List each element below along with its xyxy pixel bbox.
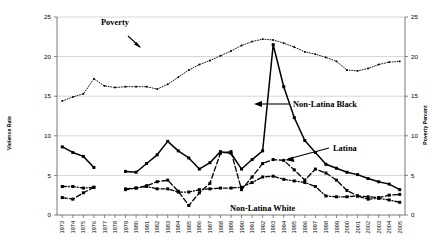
series-label-non-latina-black: Non-Latina Black xyxy=(293,100,357,109)
data-point-marker xyxy=(367,177,370,180)
data-point-marker xyxy=(135,187,138,190)
data-point-marker xyxy=(219,187,222,190)
data-point-marker xyxy=(335,167,338,170)
data-point-marker xyxy=(367,68,369,70)
data-point-marker xyxy=(208,187,211,190)
y-axis-left-tick-label: 15 xyxy=(44,92,51,99)
x-axis-tick-label: 1996 xyxy=(302,221,308,233)
y-axis-left-tick-label: 25 xyxy=(44,13,51,20)
data-point-marker xyxy=(272,175,275,178)
x-axis-tick-label: 1984 xyxy=(175,221,181,233)
x-axis-tick-label: 1992 xyxy=(260,221,266,233)
data-point-marker xyxy=(335,195,338,198)
x-axis-tick-label: 1973 xyxy=(59,221,65,233)
data-point-marker xyxy=(272,43,275,46)
data-point-marker xyxy=(388,198,391,201)
x-axis-tick-label: 1978 xyxy=(112,221,118,233)
data-point-marker xyxy=(208,182,211,185)
x-axis-tick-label: 2003 xyxy=(376,221,382,233)
data-point-marker xyxy=(230,50,232,52)
data-point-marker xyxy=(324,172,327,175)
y-axis-right-tick-label: 15 xyxy=(411,92,418,99)
data-point-marker xyxy=(198,188,201,191)
series-line xyxy=(62,187,94,199)
data-point-marker xyxy=(92,166,95,169)
y-axis-left-title: Violence Rate xyxy=(6,116,12,150)
data-point-marker xyxy=(71,185,74,188)
data-point-marker xyxy=(293,116,296,119)
data-point-marker xyxy=(187,204,190,207)
data-point-marker xyxy=(61,100,63,102)
data-point-marker xyxy=(272,39,274,41)
data-point-marker xyxy=(82,187,85,190)
data-point-marker xyxy=(293,168,296,171)
data-point-marker xyxy=(377,197,380,200)
x-axis-tick-label: 2001 xyxy=(355,221,361,233)
x-axis-tick-label: 1974 xyxy=(70,221,76,233)
x-axis-tick-label: 1991 xyxy=(249,221,255,233)
data-point-marker xyxy=(241,45,243,47)
data-point-marker xyxy=(303,139,306,142)
data-point-marker xyxy=(156,153,159,156)
x-axis-tick-label: 1977 xyxy=(102,221,108,233)
data-point-marker xyxy=(399,61,401,63)
y-axis-left-tick-label: 20 xyxy=(44,53,51,60)
data-point-marker xyxy=(230,187,233,190)
data-point-marker xyxy=(282,85,285,88)
data-point-marker xyxy=(336,61,338,63)
data-point-marker xyxy=(357,70,359,72)
series-label-poverty: Poverty xyxy=(101,18,130,27)
data-point-marker xyxy=(346,171,349,174)
x-axis-tick-label: 1994 xyxy=(281,221,287,233)
series-line xyxy=(62,186,94,188)
data-point-marker xyxy=(388,194,391,197)
data-point-marker xyxy=(71,151,74,154)
y-axis-right-tick-label: 10 xyxy=(411,132,418,139)
data-point-marker xyxy=(261,175,264,178)
x-axis-tick-label: 1976 xyxy=(91,221,97,233)
y-axis-right-tick-label: 20 xyxy=(411,53,418,60)
data-point-marker xyxy=(208,161,211,164)
data-point-marker xyxy=(378,64,380,66)
data-point-marker xyxy=(72,96,74,98)
data-point-marker xyxy=(314,168,317,171)
x-axis-tick-label: 1987 xyxy=(207,221,213,233)
x-axis-ticks: 1973197419751976197719781979198019811982… xyxy=(59,215,402,233)
data-point-marker xyxy=(282,159,285,162)
data-point-marker xyxy=(145,162,148,165)
x-axis-tick-label: 1980 xyxy=(133,221,139,233)
data-point-marker xyxy=(398,188,401,191)
x-axis-tick-label: 1981 xyxy=(144,221,150,233)
data-point-marker xyxy=(167,83,169,85)
data-point-marker xyxy=(314,185,317,188)
series-line xyxy=(62,39,399,101)
data-point-marker xyxy=(335,179,338,182)
data-point-marker xyxy=(198,168,201,171)
data-point-marker xyxy=(356,194,359,197)
data-point-marker xyxy=(324,163,327,166)
data-point-marker xyxy=(198,191,201,194)
data-point-marker xyxy=(324,194,327,197)
y-axis-left-tick-label: 10 xyxy=(44,132,51,139)
data-point-marker xyxy=(240,168,243,171)
data-point-marker xyxy=(145,185,148,188)
x-axis-tick-label: 1995 xyxy=(291,221,297,233)
series-poverty xyxy=(61,38,400,101)
data-point-marker xyxy=(388,61,390,63)
data-point-marker xyxy=(304,51,306,53)
data-point-marker xyxy=(114,87,116,89)
x-axis-tick-label: 1986 xyxy=(196,221,202,233)
data-point-marker xyxy=(82,155,85,158)
data-point-marker xyxy=(262,38,264,40)
data-point-marker xyxy=(230,150,233,153)
x-axis-tick-label: 2002 xyxy=(365,221,371,233)
x-axis-tick-label: 2000 xyxy=(344,221,350,233)
data-point-marker xyxy=(315,53,317,55)
series-label-latina: Latina xyxy=(333,144,358,153)
data-point-marker xyxy=(92,186,95,189)
data-point-marker xyxy=(177,76,179,78)
series-latina xyxy=(61,150,401,207)
data-point-marker xyxy=(61,145,64,148)
data-point-marker xyxy=(251,41,253,43)
data-point-marker xyxy=(251,181,254,184)
